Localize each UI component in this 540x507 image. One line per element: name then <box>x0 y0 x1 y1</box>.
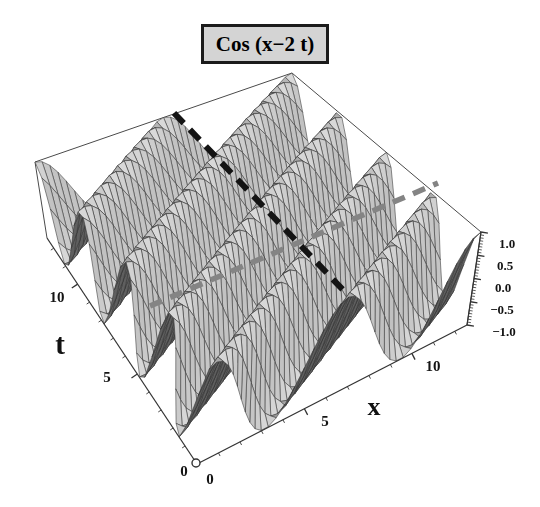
x-tick-label: 0 <box>206 471 214 488</box>
z-tick-label: 1.0 <box>499 236 515 252</box>
x-tick-label: 10 <box>426 358 441 375</box>
z-tick-label: 0.0 <box>495 280 511 296</box>
surface-plot-canvas <box>0 0 540 507</box>
t-tick-label: 10 <box>50 289 65 306</box>
x-axis-label: x <box>368 392 381 422</box>
x-tick-label: 5 <box>321 413 329 430</box>
t-tick-label: 5 <box>103 369 111 386</box>
z-tick-label: −0.5 <box>490 302 514 318</box>
plot-figure: Cos (x−2 t) t x 051005101.00.50.0−0.5−1.… <box>0 0 540 507</box>
z-tick-label: −1.0 <box>492 324 516 340</box>
plot-title: Cos (x−2 t) <box>201 24 329 64</box>
t-tick-label: 0 <box>180 463 188 480</box>
z-tick-label: 0.5 <box>497 258 513 274</box>
t-axis-label: t <box>55 328 65 361</box>
